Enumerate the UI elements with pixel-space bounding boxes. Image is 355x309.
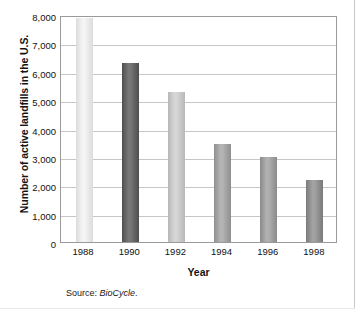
y-axis-tick-labels: 01,0002,0003,0004,0005,0006,0007,0008,00… <box>14 16 56 243</box>
y-axis-tick-label: 8,000 <box>14 12 56 23</box>
bar-slot <box>61 17 107 242</box>
x-axis-tick-label: 1988 <box>73 246 94 257</box>
y-axis-tick-label: 4,000 <box>14 125 56 136</box>
bar-1992[interactable] <box>168 92 185 242</box>
y-axis-tick-label: 7,000 <box>14 40 56 51</box>
y-axis-tick-label: 6,000 <box>14 68 56 79</box>
x-axis-tick-label: 1998 <box>303 246 324 257</box>
bar-series <box>61 17 336 242</box>
source-prefix: Source: <box>66 288 97 298</box>
source-suffix: . <box>135 288 138 298</box>
bar-slot <box>107 17 153 242</box>
bar-slot <box>246 17 292 242</box>
source-note: Source: BioCycle. <box>66 288 138 298</box>
y-axis-tick-label: 3,000 <box>14 153 56 164</box>
x-axis-tick-label: 1996 <box>257 246 278 257</box>
x-axis-tick-label: 1994 <box>211 246 232 257</box>
bar-1996[interactable] <box>260 157 277 242</box>
bar-slot <box>200 17 246 242</box>
y-axis-tick-label: 1,000 <box>14 210 56 221</box>
chart-figure: Number of active landfills in the U.S. 0… <box>0 0 355 309</box>
x-axis-tick-label: 1990 <box>119 246 140 257</box>
y-axis-tick-label: 5,000 <box>14 97 56 108</box>
plot-area <box>60 16 337 243</box>
bar-slot <box>153 17 199 242</box>
bar-1988[interactable] <box>76 18 93 242</box>
x-axis-tick-labels: 198819901992199419961998 <box>60 246 337 262</box>
bar-1994[interactable] <box>214 144 231 242</box>
bar-1990[interactable] <box>122 63 139 242</box>
bar-slot <box>292 17 338 242</box>
y-axis-tick-label: 2,000 <box>14 182 56 193</box>
x-axis-tick-label: 1992 <box>165 246 186 257</box>
bar-1998[interactable] <box>306 180 323 242</box>
y-axis-tick-label: 0 <box>14 239 56 250</box>
x-axis-title: Year <box>60 266 337 278</box>
source-name: BioCycle <box>100 288 136 298</box>
